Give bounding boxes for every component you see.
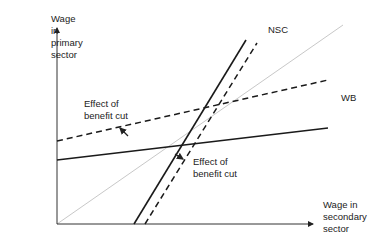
nsc-shift-arrow	[175, 154, 183, 159]
nsc-label: NSC	[268, 24, 288, 36]
nsc-curve	[134, 40, 246, 224]
nsc-shifted-curve	[145, 43, 257, 224]
annotation-nsc-benefit-cut: Effect of benefit cut	[193, 156, 237, 180]
wb-shift-arrow	[120, 128, 128, 136]
reference-45-degree-line	[57, 25, 343, 224]
annotation-wb-benefit-cut: Effect of benefit cut	[84, 98, 128, 122]
x-axis-label: Wage in secondary sector	[323, 199, 367, 235]
wb-label: WB	[341, 92, 356, 104]
y-axis-label: Wage in primary sector	[51, 13, 83, 61]
